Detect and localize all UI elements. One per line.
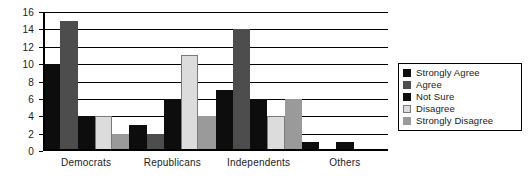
legend-label-strongly-disagree: Strongly Disagree (416, 115, 493, 127)
chart-container: 1614121086420 DemocratsRepublicansIndepe… (0, 0, 529, 189)
y-tick-label-16: 16 (0, 7, 34, 18)
legend-item-agree[interactable]: Agree (403, 79, 517, 91)
legend-swatch-strongly-agree-icon (403, 69, 411, 77)
y-tick-label-12: 12 (0, 41, 34, 52)
legend-label-strongly-agree: Strongly Agree (416, 67, 480, 79)
y-tick-label-14: 14 (0, 24, 34, 35)
legend-item-disagree[interactable]: Disagree (403, 103, 517, 115)
legend-item-strongly-agree[interactable]: Strongly Agree (403, 67, 517, 79)
legend-swatch-agree-icon (403, 81, 411, 89)
legend-item-strongly-disagree[interactable]: Strongly Disagree (403, 115, 517, 127)
legend-label-disagree: Disagree (416, 103, 455, 115)
y-tick-label-8: 8 (0, 76, 34, 87)
legend-item-not-sure[interactable]: Not Sure (403, 91, 517, 103)
legend-label-not-sure: Not Sure (416, 91, 454, 103)
x-axis-labels: DemocratsRepublicansIndependentsOthers (43, 157, 388, 168)
legend-label-agree: Agree (416, 79, 442, 91)
legend: Strongly AgreeAgreeNot SureDisagreeStron… (398, 63, 522, 131)
y-tick-mark-0 (39, 151, 43, 152)
axis-frame (43, 12, 388, 151)
y-tick-label-2: 2 (0, 128, 34, 139)
plot-area (43, 12, 388, 151)
y-tick-label-4: 4 (0, 111, 34, 122)
legend-swatch-strongly-disagree-icon (403, 117, 411, 125)
x-axis-label-democrats: Democrats (43, 157, 129, 168)
y-tick-label-0: 0 (0, 146, 34, 157)
x-axis-label-independents: Independents (216, 157, 302, 168)
legend-swatch-not-sure-icon (403, 93, 411, 101)
legend-swatch-disagree-icon (403, 105, 411, 113)
x-axis-label-republicans: Republicans (129, 157, 215, 168)
y-tick-label-10: 10 (0, 59, 34, 70)
y-tick-label-6: 6 (0, 93, 34, 104)
x-axis-label-others: Others (302, 157, 388, 168)
